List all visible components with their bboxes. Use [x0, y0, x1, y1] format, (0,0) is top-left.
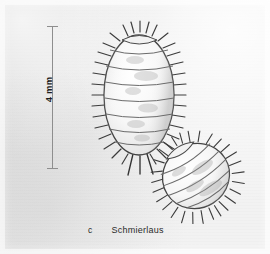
mealybug-body-lower [149, 129, 242, 221]
figure-caption: c Schmierlaus [88, 225, 164, 235]
caption-letter: c [88, 225, 93, 235]
scale-bar-bottom-cap [47, 168, 58, 169]
caption-species-name: Schmierlaus [112, 225, 164, 235]
figure-plate: 4 mm [0, 0, 270, 254]
mealybug-oblique-lower [128, 128, 264, 224]
scale-bar-label: 4 mm [43, 62, 54, 118]
scale-bar: 4 mm [44, 22, 70, 174]
